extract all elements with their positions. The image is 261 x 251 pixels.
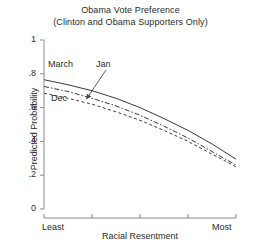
- x-axis-label: Racial Resentment: [44, 231, 236, 241]
- series-line-dec: [44, 93, 236, 167]
- series-label-jan: Jan: [96, 59, 111, 69]
- series-group: [44, 80, 236, 167]
- series-line-jan: [44, 86, 236, 165]
- plot-area: [0, 0, 261, 251]
- y-tick-label: .2: [16, 169, 36, 179]
- y-tick-label: 1: [16, 34, 36, 44]
- chart-figure: Obama Vote Preference (Clinton and Obama…: [0, 0, 261, 251]
- series-line-march: [44, 80, 236, 159]
- series-label-march: March: [48, 59, 73, 69]
- jan-annotation-arrow-shaft: [86, 70, 106, 99]
- annotation-arrows: [86, 70, 106, 99]
- jan-annotation-arrow-head: [86, 94, 91, 100]
- y-tick-label: .8: [16, 68, 36, 78]
- y-tick-label: 0: [16, 203, 36, 213]
- series-label-dec: Dec: [51, 93, 67, 103]
- x-tick-label: Most: [212, 222, 232, 232]
- x-tick-label: Least: [42, 222, 64, 232]
- y-tick-label: .6: [16, 102, 36, 112]
- y-tick-label: .4: [16, 135, 36, 145]
